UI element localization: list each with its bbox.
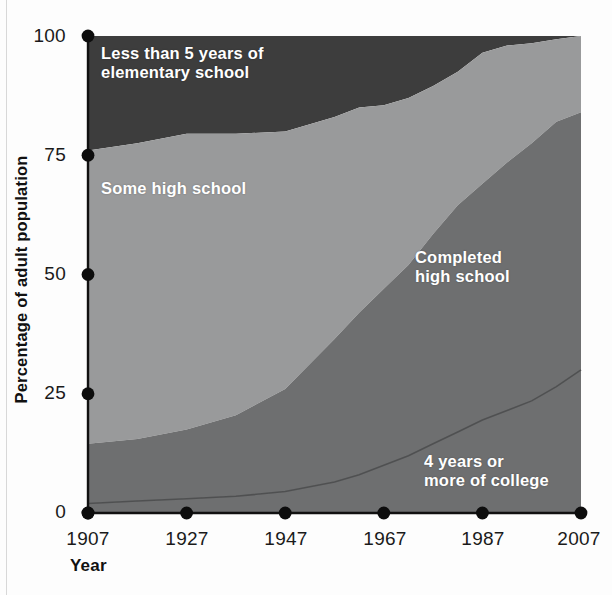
y-tick-label-0: 0 (14, 501, 66, 523)
x-tick-marker-1907 (82, 507, 95, 520)
y-tick-label-25: 25 (14, 382, 66, 404)
x-tick-label-1987: 1987 (445, 528, 521, 550)
x-tick-label-1947: 1947 (248, 528, 324, 550)
x-tick-label-1967: 1967 (347, 528, 423, 550)
y-tick-marker-100 (82, 30, 95, 43)
chart-figure: Percentage of adult population 100 75 50… (0, 0, 612, 595)
x-tick-label-1927: 1927 (149, 528, 225, 550)
area-label-elementary: Less than 5 years of elementary school (101, 44, 264, 82)
y-tick-marker-50 (82, 268, 95, 281)
x-axis-title: Year (70, 556, 107, 576)
x-tick-label-2007: 2007 (541, 528, 612, 550)
y-tick-marker-25 (82, 387, 95, 400)
area-label-some-high-school: Some high school (101, 179, 246, 198)
x-tick-marker-1927 (180, 507, 193, 520)
stacked-area-plot (0, 0, 612, 595)
x-tick-marker-2007 (575, 507, 588, 520)
y-tick-marker-75 (82, 149, 95, 162)
x-tick-label-1907: 1907 (50, 528, 126, 550)
y-tick-label-100: 100 (14, 25, 66, 47)
x-tick-marker-1967 (377, 507, 390, 520)
area-label-college: 4 years or more of college (424, 452, 549, 490)
area-label-completed-high-school: Completed high school (415, 248, 510, 286)
y-tick-label-50: 50 (14, 263, 66, 285)
x-tick-marker-1987 (476, 507, 489, 520)
x-tick-marker-1947 (279, 507, 292, 520)
y-tick-label-75: 75 (14, 144, 66, 166)
